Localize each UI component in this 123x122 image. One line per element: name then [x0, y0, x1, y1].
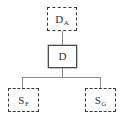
edge-da-to-d [62, 30, 63, 46]
node-sf-label: SF [18, 95, 28, 106]
node-d-label: D [58, 51, 66, 62]
node-d[interactable]: D [48, 45, 77, 68]
diagram-canvas: DA D SF SG [0, 0, 123, 122]
edge-horizontal-bus [22, 77, 101, 78]
node-da[interactable]: DA [47, 7, 77, 31]
node-sg-label: SG [95, 95, 107, 106]
node-da-label: DA [55, 14, 68, 25]
node-sg[interactable]: SG [85, 88, 116, 112]
node-sf[interactable]: SF [8, 88, 39, 112]
